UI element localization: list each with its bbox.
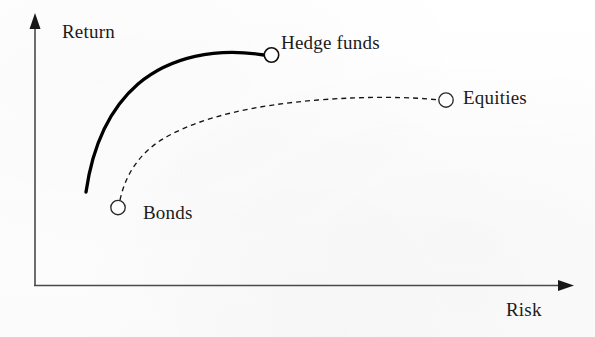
- equities-curve-group: [111, 93, 453, 215]
- return-axis-arrowhead: [30, 13, 41, 29]
- risk-return-figure: Return Risk Hedge funds Equities Bonds: [0, 0, 595, 337]
- risk-axis-arrowhead: [558, 280, 574, 291]
- equities-curve: [120, 97, 439, 200]
- axes-group: [30, 13, 575, 291]
- hedge-funds-label: Hedge funds: [281, 33, 380, 52]
- risk-axis-label: Risk: [506, 300, 542, 319]
- hedge-funds-marker[interactable]: [264, 48, 278, 62]
- equities-label: Equities: [463, 88, 527, 107]
- return-axis-label: Return: [62, 22, 115, 41]
- hedge-funds-curve-group: [86, 48, 279, 192]
- hedge-funds-curve: [86, 52, 264, 192]
- bonds-marker[interactable]: [111, 200, 125, 214]
- bonds-label: Bonds: [143, 203, 193, 222]
- equities-marker[interactable]: [439, 93, 453, 107]
